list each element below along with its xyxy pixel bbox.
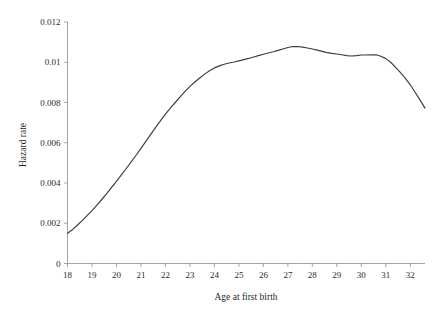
y-tick-label: 0.002: [40, 218, 60, 228]
chart-page: 00.0020.0040.0060.0080.010.012 181920212…: [0, 0, 445, 316]
x-tick-labels: 181920212223242526272829303132: [63, 270, 415, 280]
x-tick-label: 27: [283, 270, 293, 280]
x-tick-label: 23: [185, 270, 195, 280]
x-tick-label: 19: [87, 270, 97, 280]
x-tick-label: 20: [112, 270, 122, 280]
hazard-rate-line-chart: 00.0020.0040.0060.0080.010.012 181920212…: [0, 0, 445, 316]
x-tick-label: 21: [136, 270, 145, 280]
x-tick-label: 29: [332, 270, 342, 280]
x-tick-label: 28: [308, 270, 318, 280]
x-tick-label: 25: [234, 270, 244, 280]
x-tick-label: 26: [259, 270, 269, 280]
x-tick-label: 24: [210, 270, 220, 280]
y-axis-title: Hazard rate: [18, 123, 28, 167]
x-tick-label: 32: [406, 270, 415, 280]
y-tick-label: 0.008: [40, 98, 61, 108]
y-tick-label: 0.01: [45, 57, 61, 67]
x-tick-label: 18: [63, 270, 73, 280]
x-tick-label: 31: [381, 270, 390, 280]
y-tick-label: 0.012: [40, 17, 60, 27]
y-tick-label: 0: [56, 259, 61, 269]
x-axis-title: Age at first birth: [214, 292, 277, 302]
y-tick-label: 0.006: [40, 138, 61, 148]
x-tick-label: 22: [161, 270, 170, 280]
y-tick-label: 0.004: [40, 178, 61, 188]
x-tick-label: 30: [357, 270, 367, 280]
